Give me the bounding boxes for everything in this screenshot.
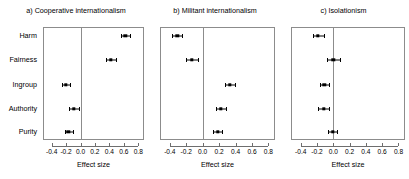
x-axis-tick — [382, 143, 383, 146]
x-axis-tick — [333, 143, 334, 146]
panel-title: c) Isolationism — [278, 6, 409, 15]
x-axis-tick-label: 0.6 — [378, 148, 387, 156]
x-axis-tick-label: 0.4 — [361, 148, 370, 156]
error-bar-cap-high — [340, 58, 341, 62]
error-bar-cap-low — [313, 34, 314, 38]
data-point-harm — [316, 34, 319, 37]
zero-reference-line — [333, 27, 334, 140]
data-point-fairness — [332, 58, 335, 61]
x-axis-line — [301, 146, 399, 147]
data-point-authority — [322, 107, 325, 110]
error-bar-cap-low — [327, 58, 328, 62]
x-axis-tick-label: 0.8 — [394, 148, 403, 156]
x-axis-tick — [398, 143, 399, 146]
data-point-ingroup — [323, 83, 326, 86]
x-axis-tick-label: -0.2 — [311, 148, 322, 156]
panel-c: c) Isolationism-0.4-0.20.00.20.40.60.8Ef… — [0, 0, 409, 179]
error-bar-cap-low — [320, 83, 321, 87]
error-bar-cap-high — [337, 130, 338, 134]
x-axis-title: Effect size — [291, 160, 405, 169]
error-bar-cap-low — [318, 107, 319, 111]
x-axis-tick-label: 0.2 — [345, 148, 354, 156]
x-axis-tick — [366, 143, 367, 146]
x-axis-tick-label: 0.0 — [329, 148, 338, 156]
plot-frame — [291, 27, 405, 140]
forest-plot-figure: a) Cooperative internationalismHarmFairn… — [0, 0, 409, 179]
x-axis-tick — [350, 143, 351, 146]
x-axis-tick-label: -0.4 — [295, 148, 306, 156]
error-bar-cap-high — [324, 34, 325, 38]
data-point-purity — [331, 130, 334, 133]
error-bar-cap-high — [329, 83, 330, 87]
error-bar-cap-low — [328, 130, 329, 134]
error-bar-cap-high — [329, 107, 330, 111]
x-axis-tick — [301, 143, 302, 146]
x-axis-tick — [317, 143, 318, 146]
